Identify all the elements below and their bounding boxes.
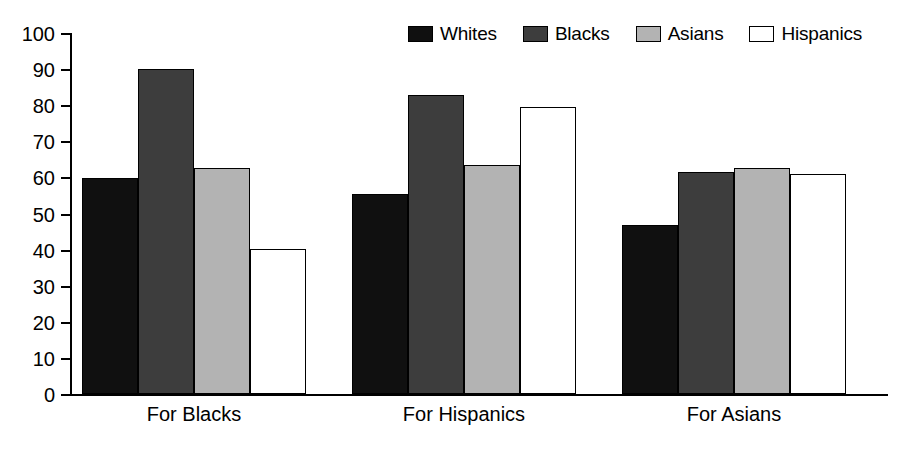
- y-tick-label: 80: [33, 96, 55, 116]
- bar-blacks-for-hispanics: [408, 95, 464, 394]
- legend-label-hispanics: Hispanics: [781, 24, 862, 43]
- y-tick-label: 100: [22, 24, 55, 44]
- bar-hispanics-for-hispanics: [520, 107, 576, 394]
- legend-label-asians: Asians: [668, 24, 724, 43]
- x-axis-line: [70, 394, 888, 396]
- chart-legend: Whites Blacks Asians Hispanics: [408, 24, 862, 43]
- y-tick-label: 90: [33, 60, 55, 80]
- y-tick-mark: 80: [61, 105, 70, 107]
- y-tick-label: 20: [33, 313, 55, 333]
- y-tick-mark: 20: [61, 322, 70, 324]
- bar-hispanics-for-blacks: [250, 249, 306, 394]
- y-tick-label: 0: [44, 385, 55, 405]
- category-label-for-hispanics: For Hispanics: [403, 404, 525, 424]
- plot-area: 0102030405060708090100: [70, 33, 888, 394]
- legend-swatch-hispanics: [749, 26, 774, 42]
- y-tick-label: 50: [33, 205, 55, 225]
- category-label-for-blacks: For Blacks: [147, 404, 241, 424]
- y-tick-mark: 10: [61, 358, 70, 360]
- y-tick-mark: 90: [61, 69, 70, 71]
- category-label-for-asians: For Asians: [687, 404, 781, 424]
- legend-label-blacks: Blacks: [555, 24, 610, 43]
- legend-swatch-whites: [408, 26, 433, 42]
- bar-whites-for-asians: [622, 225, 678, 394]
- legend-entry-whites: Whites: [408, 24, 497, 43]
- y-tick-label: 10: [33, 349, 55, 369]
- bar-blacks-for-blacks: [138, 69, 194, 394]
- y-tick-mark: 60: [61, 177, 70, 179]
- y-tick-mark: 50: [61, 214, 70, 216]
- bar-blacks-for-asians: [678, 172, 734, 394]
- y-tick-label: 40: [33, 241, 55, 261]
- bar-asians-for-hispanics: [464, 165, 520, 394]
- bars-layer: [72, 33, 888, 394]
- bar-group-for-asians: [622, 33, 846, 394]
- y-tick-label: 30: [33, 277, 55, 297]
- bar-chart-figure: Whites Blacks Asians Hispanics 010203040…: [0, 0, 909, 452]
- y-tick-label: 70: [33, 132, 55, 152]
- bar-asians-for-blacks: [194, 168, 250, 394]
- bar-group-for-blacks: [82, 33, 306, 394]
- y-tick-mark: 30: [61, 286, 70, 288]
- legend-entry-asians: Asians: [636, 24, 724, 43]
- y-tick-label: 60: [33, 168, 55, 188]
- y-tick-mark: 100: [61, 33, 70, 35]
- bar-whites-for-hispanics: [352, 194, 408, 394]
- legend-swatch-asians: [636, 26, 661, 42]
- y-tick-mark: 40: [61, 250, 70, 252]
- bar-group-for-hispanics: [352, 33, 576, 394]
- bar-whites-for-blacks: [82, 178, 138, 394]
- legend-label-whites: Whites: [440, 24, 497, 43]
- legend-entry-blacks: Blacks: [523, 24, 610, 43]
- y-tick-mark: 70: [61, 141, 70, 143]
- y-tick-mark: 0: [61, 394, 70, 396]
- legend-swatch-blacks: [523, 26, 548, 42]
- legend-entry-hispanics: Hispanics: [749, 24, 862, 43]
- bar-asians-for-asians: [734, 168, 790, 394]
- bar-hispanics-for-asians: [790, 174, 846, 394]
